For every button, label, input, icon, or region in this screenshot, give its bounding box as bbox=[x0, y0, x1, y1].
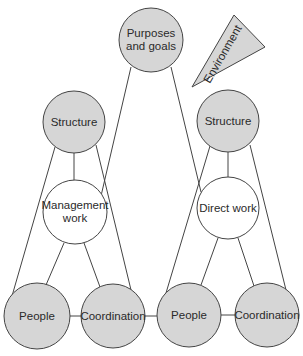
coordination-left-label: Coordination bbox=[80, 310, 145, 322]
organization-diagram: Environment Purposes and goals Structure… bbox=[0, 0, 303, 356]
coordination-right-label: Coordination bbox=[234, 309, 299, 321]
node-people-right: People bbox=[157, 283, 221, 347]
line-management-coordination bbox=[84, 243, 100, 287]
people-right-label: People bbox=[171, 309, 207, 321]
node-purposes: Purposes and goals bbox=[119, 8, 183, 72]
environment-triangle: Environment bbox=[192, 15, 265, 87]
node-management-work: Management work bbox=[41, 180, 109, 244]
line-purposes-directwork bbox=[171, 67, 201, 192]
node-people-left: People bbox=[4, 283, 70, 349]
structure-left-label: Structure bbox=[51, 116, 98, 128]
line-directwork-coordination bbox=[238, 238, 254, 286]
management-label-1: Management bbox=[41, 199, 109, 211]
management-label-2: work bbox=[62, 212, 88, 224]
node-coordination-left: Coordination bbox=[80, 284, 145, 348]
purposes-label-1: Purposes bbox=[127, 27, 176, 39]
line-directwork-people bbox=[201, 238, 218, 285]
line-management-people bbox=[46, 243, 64, 285]
line-purposes-management bbox=[101, 67, 131, 196]
node-direct-work: Direct work bbox=[197, 177, 259, 239]
structure-right-label: Structure bbox=[205, 115, 252, 127]
node-coordination-right: Coordination bbox=[234, 283, 299, 347]
people-left-label: People bbox=[19, 310, 55, 322]
node-structure-left: Structure bbox=[43, 91, 105, 153]
node-structure-right: Structure bbox=[197, 90, 259, 152]
purposes-label-2: and goals bbox=[126, 40, 176, 52]
direct-work-label: Direct work bbox=[199, 202, 257, 214]
